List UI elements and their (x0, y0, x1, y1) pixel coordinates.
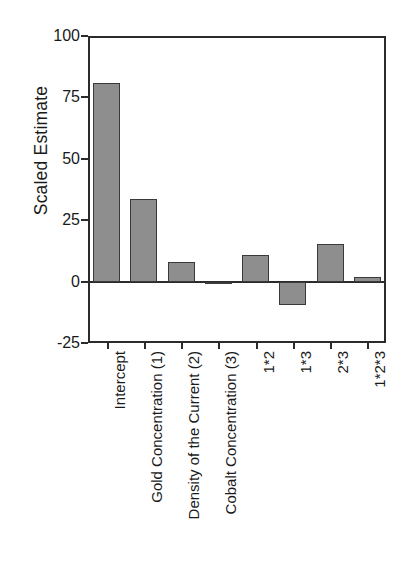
y-axis-tick-label: 25 (32, 211, 80, 229)
y-axis-tick-label: 75 (32, 88, 80, 106)
y-axis-tick-label: 0 (32, 273, 80, 291)
x-axis-tick-label: 2*3 (335, 351, 350, 374)
bar (279, 282, 306, 305)
y-axis-tick-labels: 1007550250-25 (26, 0, 80, 578)
x-axis-tick-label: 1*3 (298, 351, 313, 374)
x-axis-tick-label: Density of the Current (2) (186, 351, 201, 519)
x-axis-tick-label: Intercept (112, 351, 127, 409)
bar (242, 255, 269, 282)
scaled-estimate-bar-chart: Scaled Estimate 1007550250-25 InterceptG… (0, 0, 407, 578)
y-axis-tick-mark (81, 96, 88, 98)
y-axis-tick-mark (81, 35, 88, 37)
x-axis-tick-label: Cobalt Concentration (3) (223, 351, 238, 514)
x-axis-tick-label: 1*2*3 (372, 351, 387, 388)
y-axis-tick-mark (81, 342, 88, 344)
bar (354, 277, 381, 282)
y-axis-tick-mark (81, 158, 88, 160)
bar-series (88, 36, 386, 343)
y-axis-tick-mark (81, 219, 88, 221)
y-axis-tick-mark (81, 281, 88, 283)
y-axis-tick-label: 50 (32, 150, 80, 168)
y-axis-tick-label: 100 (32, 27, 80, 45)
x-axis-tick-labels: InterceptGold Concentration (1)Density o… (88, 343, 386, 578)
bar (317, 244, 344, 282)
x-axis-tick-label: 1*2 (261, 351, 276, 374)
bar (205, 282, 232, 285)
bar (93, 83, 120, 282)
x-axis-tick-label: Gold Concentration (1) (149, 351, 164, 503)
y-axis-tick-label: -25 (32, 334, 80, 352)
bar (168, 262, 195, 282)
bar (130, 199, 157, 281)
